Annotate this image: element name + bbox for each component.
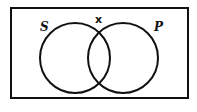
venn-diagram: S P x [0, 0, 197, 112]
set-s-circle [40, 23, 110, 93]
set-s-label: S [40, 20, 49, 34]
x-mark: x [95, 13, 102, 26]
set-p-circle [88, 23, 158, 93]
set-p-label: P [153, 20, 164, 34]
